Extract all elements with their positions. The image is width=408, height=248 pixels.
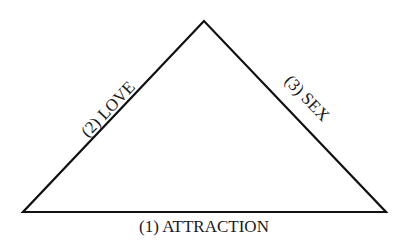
triangle-shape [23,21,386,212]
side-label-love: (2) LOVE [77,78,139,141]
triangle-diagram: (2) LOVE (3) SEX (1) ATTRACTION [0,0,408,248]
side-label-attraction: (1) ATTRACTION [139,217,269,236]
side-label-sex: (3) SEX [281,71,333,125]
triangle-svg: (2) LOVE (3) SEX (1) ATTRACTION [0,0,408,248]
